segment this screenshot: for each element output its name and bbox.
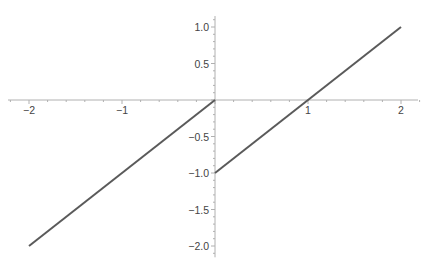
y-tick-label: −1.0 [188, 167, 209, 179]
y-tick-label: 0.5 [194, 58, 209, 70]
x-tick-label: 1 [305, 104, 311, 116]
y-tick-label: −1.5 [188, 204, 209, 216]
x-tick-label: 2 [398, 104, 404, 116]
x-tick-label: −2 [23, 104, 35, 116]
y-tick-label: −0.5 [188, 131, 209, 143]
chart: −2−1121.00.5−0.5−1.0−1.5−2.0 [0, 0, 426, 276]
y-tick-label: 1.0 [194, 21, 209, 33]
y-tick-label: −2.0 [188, 240, 209, 252]
series-line-piece-left [29, 100, 215, 246]
axes [8, 16, 420, 257]
x-tick-label: −1 [116, 104, 128, 116]
